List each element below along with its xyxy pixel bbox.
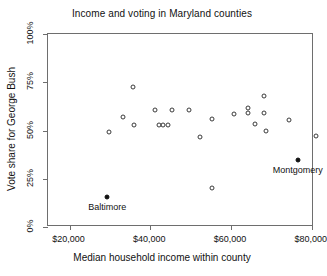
y-tick-label: 100% — [25, 21, 35, 44]
x-tick-label: $80,000 — [295, 234, 327, 244]
data-point — [121, 115, 126, 120]
data-point — [287, 118, 292, 123]
x-tick — [70, 225, 71, 230]
y-tick-label: 50% — [25, 120, 35, 138]
data-point — [132, 122, 137, 127]
data-point — [262, 94, 267, 99]
x-axis-title: Median household income within county — [0, 252, 324, 263]
y-tick — [43, 34, 48, 35]
highlighted-data-point — [295, 157, 300, 162]
y-tick — [43, 227, 48, 228]
y-tick — [43, 179, 48, 180]
data-point — [187, 108, 192, 113]
y-axis-title: Vote share for George Bush — [6, 67, 17, 191]
y-tick — [43, 82, 48, 83]
y-tick-label: 75% — [25, 72, 35, 90]
data-point-label: Baltimore — [88, 202, 126, 212]
data-point — [263, 129, 268, 134]
y-tick-label: 0% — [25, 219, 35, 232]
data-point-label: Montgomery — [273, 165, 323, 175]
data-point — [262, 111, 267, 116]
x-tick-label: $60,000 — [214, 234, 247, 244]
data-point — [314, 134, 319, 139]
data-point — [169, 108, 174, 113]
data-point — [232, 112, 237, 117]
data-point — [252, 121, 257, 126]
data-point — [131, 85, 136, 90]
y-tick — [43, 131, 48, 132]
data-point — [107, 130, 112, 135]
x-tick — [231, 225, 232, 230]
data-point — [209, 185, 214, 190]
data-point — [165, 122, 170, 127]
data-point — [246, 111, 251, 116]
data-point — [246, 105, 251, 110]
plot-area: BaltimoreMontgomery — [47, 33, 313, 226]
x-tick-label: $20,000 — [52, 234, 85, 244]
chart-title: Income and voting in Maryland counties — [0, 8, 324, 19]
x-tick — [150, 225, 151, 230]
data-point — [152, 108, 157, 113]
data-point — [209, 117, 214, 122]
x-tick-label: $40,000 — [133, 234, 166, 244]
highlighted-data-point — [105, 194, 110, 199]
y-tick-label: 25% — [25, 169, 35, 187]
data-point — [197, 135, 202, 140]
x-tick — [312, 225, 313, 230]
